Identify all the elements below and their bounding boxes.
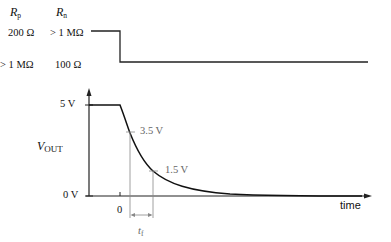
- x-axis-label: time: [340, 200, 361, 211]
- level-1-5v-label: 1.5 V: [165, 165, 188, 176]
- vout-subscript: OUT: [44, 144, 63, 154]
- tf-subscript: f: [141, 229, 144, 238]
- fall-time-label: tf: [138, 226, 143, 238]
- y-axis-arrow-icon: [87, 88, 92, 96]
- x-axis-arrow-icon: [364, 194, 372, 199]
- y-axis-label: VOUT: [37, 140, 63, 154]
- tf-right-arrow-icon: [148, 213, 153, 217]
- y-tick-label-0v: 0 V: [63, 190, 78, 201]
- tf-left-arrow-icon: [131, 213, 136, 217]
- waveform-diagram: [0, 0, 391, 242]
- input-step-waveform: [91, 31, 368, 62]
- x-tick-label-zero: 0: [117, 205, 122, 216]
- y-tick-label-5v: 5 V: [60, 99, 75, 110]
- level-3-5v-label: 3.5 V: [140, 126, 163, 137]
